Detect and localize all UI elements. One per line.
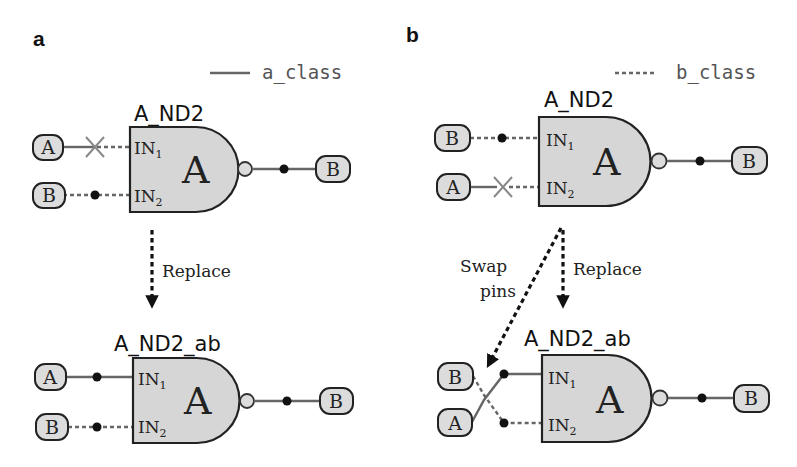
net-pill-B: B — [435, 125, 470, 151]
net-pill-B: B — [36, 414, 68, 440]
gate-letter: A — [181, 148, 210, 192]
svg-text:B: B — [329, 390, 343, 412]
svg-text:A: A — [40, 136, 55, 158]
gate-letter: A — [595, 378, 624, 422]
net-dot — [91, 191, 100, 200]
net-pill-output-B: B — [734, 385, 769, 412]
net-pill-A: A — [438, 409, 472, 436]
net-dot — [498, 134, 507, 143]
net-pill-A: A — [35, 364, 66, 390]
net-dot — [696, 157, 705, 166]
cell-name: A_ND2 — [544, 88, 614, 113]
net-pill-B: B — [438, 363, 473, 390]
inverter-bubble — [653, 391, 668, 406]
legend-a-class: a_class — [210, 61, 342, 84]
net-pill-output-B: B — [320, 388, 353, 414]
inverter-bubble — [652, 154, 667, 169]
net-pill-output-B: B — [316, 156, 350, 182]
svg-text:B: B — [45, 416, 59, 438]
arrow-label-swap: Swap — [460, 256, 507, 276]
panel-label-a: a — [33, 27, 45, 50]
net-dot — [500, 419, 509, 428]
gate-letter: A — [592, 140, 621, 184]
net-dot — [280, 165, 289, 174]
gate-letter: A — [183, 379, 212, 423]
net-dot — [283, 397, 292, 406]
svg-text:B: B — [445, 127, 459, 149]
svg-text:B: B — [742, 150, 756, 172]
net-pill-A: A — [33, 135, 63, 160]
pin-swap-diagram: a a_class A_ND2 A B — [0, 0, 797, 467]
panel-label-b: b — [406, 23, 419, 46]
net-pill-output-B: B — [732, 147, 767, 174]
wire-a-class-crossed — [472, 374, 542, 422]
svg-text:A: A — [445, 176, 460, 198]
net-pill-A: A — [437, 174, 470, 200]
arrow-label-replace: Replace — [573, 259, 642, 279]
svg-text:B: B — [326, 158, 340, 180]
gate-before-b: A_ND2 B A IN1 IN2 A — [435, 88, 767, 206]
svg-text:B: B — [42, 184, 56, 206]
legend-label: b_class — [676, 61, 756, 84]
cell-name: A_ND2_ab — [114, 332, 221, 357]
inverter-bubble — [238, 162, 252, 176]
legend-label: a_class — [262, 61, 342, 84]
gate-after-b: A_ND2_ab B A IN1 IN2 A B — [438, 327, 769, 442]
net-dot — [500, 370, 509, 379]
net-pill-B: B — [33, 183, 65, 208]
gate-after-a: A_ND2_ab A B IN1 IN2 A B — [35, 332, 353, 443]
cell-name: A_ND2_ab — [524, 327, 631, 352]
legend-b-class: b_class — [615, 61, 756, 84]
replace-arrow-b: Replace — [563, 230, 642, 302]
panel-a: a a_class A_ND2 A B — [33, 27, 353, 443]
arrow-label-replace: Replace — [162, 261, 231, 281]
arrow-label-pins: pins — [480, 281, 516, 301]
panel-b: b b_class A_ND2 B A IN1 — [406, 23, 769, 442]
svg-text:A: A — [42, 366, 57, 388]
net-dot — [93, 373, 102, 382]
inverter-bubble — [240, 394, 254, 408]
cell-name: A_ND2 — [134, 102, 204, 127]
svg-text:A: A — [447, 412, 462, 434]
net-dot — [93, 423, 102, 432]
svg-text:B: B — [448, 366, 462, 388]
replace-arrow-a: Replace — [152, 230, 231, 302]
net-dot — [698, 394, 707, 403]
svg-text:B: B — [744, 387, 758, 409]
gate-before-a: A_ND2 A B IN1 IN2 A — [33, 102, 350, 212]
